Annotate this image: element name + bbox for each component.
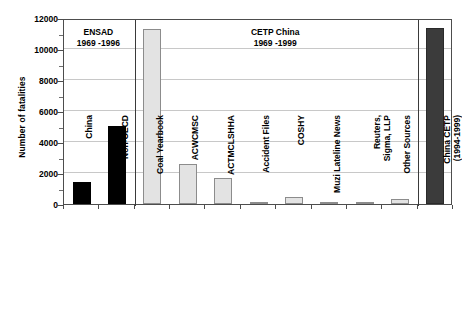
x-label-acwcmsc: ACWCMSC xyxy=(191,115,201,211)
x-tick-5 xyxy=(240,205,241,209)
x-tick-3 xyxy=(169,205,170,209)
x-label-reuters-sigma-llp: Reuters,Sigma, LLP xyxy=(373,115,392,211)
x-tick-4 xyxy=(204,205,205,209)
cetp-china-group-line1: CETP China xyxy=(205,27,345,38)
ensad-group-line2: 1969 -1996 xyxy=(28,38,168,49)
x-tick-8 xyxy=(346,205,347,209)
group-separator-2 xyxy=(418,20,419,206)
x-label-line1: ACTMCLSHHA xyxy=(227,115,237,211)
gridline-6000 xyxy=(64,110,451,111)
y-axis-title: Number of fatalities xyxy=(17,47,27,187)
x-tick-6 xyxy=(275,205,276,209)
x-tick-2 xyxy=(134,205,135,209)
x-label-actmclshha: ACTMCLSHHA xyxy=(227,115,237,211)
x-tick-1 xyxy=(98,205,99,209)
x-label-line1: Accident Files xyxy=(262,115,272,211)
x-label-line1: Other Sources xyxy=(403,115,413,211)
ensad-group: ENSAD1969 -1996 xyxy=(28,27,168,49)
x-label-china: China xyxy=(85,115,95,211)
x-label-line1: Reuters, xyxy=(373,115,383,211)
y-tick-label-8000: 8000 xyxy=(12,77,58,86)
x-label-line1: China xyxy=(85,115,95,211)
ensad-group-line1: ENSAD xyxy=(28,27,168,38)
y-tick-label-4000: 4000 xyxy=(12,139,58,148)
gridline-8000 xyxy=(64,79,451,80)
x-label-line1: Muzi Lateline News xyxy=(333,115,343,211)
y-tick-label-6000: 6000 xyxy=(12,108,58,117)
x-label-line2: (1994-1999) xyxy=(453,115,462,211)
y-tick-label-12000: 12000 xyxy=(12,15,58,24)
bar-reuters-sigma-llp xyxy=(356,202,374,204)
x-label-other-sources: Other Sources xyxy=(403,115,413,211)
cetp-china-group: CETP China1969 -1999 xyxy=(205,27,345,49)
x-label-china-cetp-1994-1999: China CETP(1994-1999) xyxy=(443,115,462,211)
x-label-coshy: COSHY xyxy=(297,115,307,211)
x-label-coal-yearbook: Coal Yearbook xyxy=(156,115,166,211)
x-label-line1: Coal Yearbook xyxy=(156,115,166,211)
x-tick-7 xyxy=(311,205,312,209)
x-label-line1: ACWCMSC xyxy=(191,115,201,211)
x-label-line2: Sigma, LLP xyxy=(382,115,392,211)
y-tick-label-2000: 2000 xyxy=(12,170,58,179)
x-label-muzi-lateline-news: Muzi Lateline News xyxy=(333,115,343,211)
x-label-line1: COSHY xyxy=(297,115,307,211)
x-label-accident-files: Accident Files xyxy=(262,115,272,211)
x-tick-10 xyxy=(417,205,418,209)
x-label-line1: Non-OECD xyxy=(121,115,131,211)
x-label-non-oecd: Non-OECD xyxy=(121,115,131,211)
x-tick-0 xyxy=(63,205,64,209)
y-tick-label-0: 0 xyxy=(12,201,58,210)
cetp-china-group-line2: 1969 -1999 xyxy=(205,38,345,49)
